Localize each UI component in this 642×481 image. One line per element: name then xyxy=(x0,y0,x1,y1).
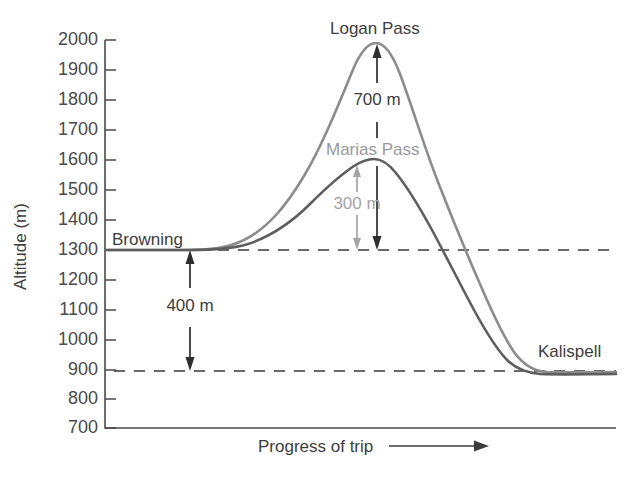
y-tick-label: 1400 xyxy=(58,209,98,229)
kalispell-label: Kalispell xyxy=(538,342,601,361)
y-tick-label: 900 xyxy=(68,359,98,379)
marias-climb-value: 300 m xyxy=(333,194,380,213)
y-tick-label: 1700 xyxy=(58,119,98,139)
axis-group: 2000 1900 1800 1700 1600 1500 1400 1300 … xyxy=(11,29,616,456)
descent-value: 400 m xyxy=(166,296,213,315)
y-tick-label: 1500 xyxy=(58,179,98,199)
descent-annotation: 400 m xyxy=(166,250,213,371)
logan-climb-value: 700 m xyxy=(353,90,400,109)
y-axis-title: Altitude (m) xyxy=(11,203,30,290)
y-tick-label: 800 xyxy=(68,388,98,408)
y-tick-label: 1900 xyxy=(58,59,98,79)
browning-label: Browning xyxy=(112,230,183,249)
y-tick-label: 1600 xyxy=(58,149,98,169)
y-tick-label: 700 xyxy=(68,417,98,437)
y-tick-labels: 2000 1900 1800 1700 1600 1500 1400 1300 … xyxy=(58,29,98,437)
x-axis-title: Progress of trip xyxy=(258,437,373,456)
y-tick-label: 1100 xyxy=(59,299,98,319)
y-tick-label: 1000 xyxy=(58,329,98,349)
y-tick-label: 1800 xyxy=(58,89,98,109)
arrow-right-icon xyxy=(389,441,489,452)
y-tick-label: 2000 xyxy=(58,29,98,49)
altitude-profile-chart: 2000 1900 1800 1700 1600 1500 1400 1300 … xyxy=(0,0,642,481)
y-tick-label: 1300 xyxy=(58,239,98,259)
logan-pass-label: Logan Pass xyxy=(330,19,420,38)
chart-canvas: 2000 1900 1800 1700 1600 1500 1400 1300 … xyxy=(0,0,642,481)
marias-pass-label: Marias Pass xyxy=(326,140,420,159)
y-tick-label: 1200 xyxy=(58,269,98,289)
